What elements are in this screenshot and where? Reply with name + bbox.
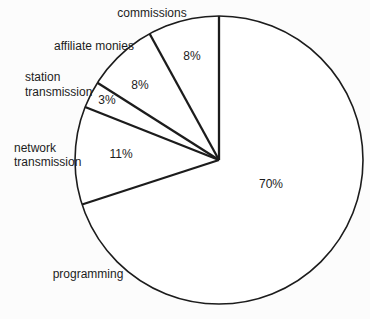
slice-label-affiliate-monies: affiliate monies [54,39,134,53]
slice-label-station-transmission: station [25,70,60,84]
slice-pct-label-affiliate-monies: 8% [131,78,149,92]
slice-label-network-transmission: network [14,141,57,155]
slice-label-network-transmission: transmission [14,155,81,169]
pie-chart-figure: commissions8%affiliate monies8%stationtr… [0,0,370,319]
slice-pct-label-station-transmission: 3% [98,93,116,107]
slice-pct-label-network-transmission: 11% [109,147,132,161]
slice-pct-label-programming: 70% [259,177,283,191]
pie-chart: commissions8%affiliate monies8%stationtr… [0,0,370,319]
slice-label-programming: programming [53,267,124,281]
slice-label-commissions: commissions [117,6,186,20]
slice-label-station-transmission: transmission [25,85,92,99]
slice-pct-label-commissions: 8% [183,49,201,63]
